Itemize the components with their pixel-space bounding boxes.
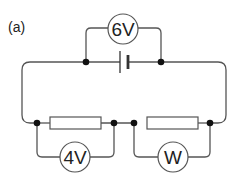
outer-wire — [22, 62, 86, 123]
circuit-diagram: (a) 6V 4V W — [0, 0, 248, 181]
resistor-left — [50, 117, 101, 129]
resistor-right — [147, 117, 198, 129]
battery-icon — [120, 51, 128, 73]
figure-label: (a) — [8, 19, 25, 35]
junction-dots — [34, 59, 214, 127]
voltmeter-4v-label: 4V — [63, 147, 87, 168]
voltmeter-6v-label: 6V — [111, 19, 135, 40]
meter-w-label: W — [164, 147, 182, 168]
